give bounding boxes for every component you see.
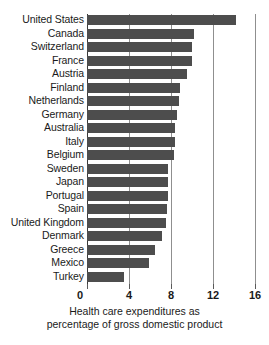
category-label: Switzerland [0,41,84,52]
category-label: France [0,55,84,66]
category-label: Canada [0,28,84,39]
plot-area [87,14,257,284]
bar [87,218,166,228]
category-label: Finland [0,82,84,93]
caption-line-2: percentage of gross domestic product [0,318,269,331]
category-label: Italy [0,136,84,147]
bar [87,110,177,120]
category-axis-labels: United StatesCanadaSwitzerlandFranceAust… [0,14,84,284]
bar [87,231,162,241]
bar [87,83,180,93]
bars-container [87,14,257,284]
category-label: Belgium [0,149,84,160]
bar [87,164,168,174]
category-label: Australia [0,122,84,133]
category-label: United Kingdom [0,217,84,228]
category-label: Austria [0,68,84,79]
bar [87,204,167,214]
x-tick-label: 12 [207,289,219,302]
bar [87,69,187,79]
bar [87,56,192,66]
bar [87,29,194,39]
bar [87,245,155,255]
category-label: Japan [0,176,84,187]
bar-chart-figure: United StatesCanadaSwitzerlandFranceAust… [0,0,269,345]
category-label: Portugal [0,190,84,201]
x-tick-label: 8 [168,289,174,302]
bar [87,191,168,201]
category-label: Mexico [0,257,84,268]
category-label: Greece [0,244,84,255]
bar [87,258,149,268]
x-tick-mark [87,284,88,289]
category-label: Turkey [0,271,84,282]
category-label: Denmark [0,230,84,241]
bar [87,177,168,187]
category-label: United States [0,14,84,25]
category-label: Netherlands [0,95,84,106]
x-tick-label: 4 [126,289,132,302]
caption-line-1: Health care expenditures as [0,305,269,318]
category-label: Sweden [0,163,84,174]
bar [87,42,192,52]
bar [87,96,179,106]
x-axis: 0481216 [87,284,257,304]
bar [87,150,174,160]
bar [87,137,175,147]
x-tick-label: 0 [77,289,83,302]
bar [87,15,236,25]
category-label: Spain [0,203,84,214]
category-label: Germany [0,109,84,120]
bar [87,123,175,133]
bar [87,272,124,282]
x-tick-label: 16 [249,289,261,302]
x-axis-caption: Health care expenditures as percentage o… [0,305,269,331]
